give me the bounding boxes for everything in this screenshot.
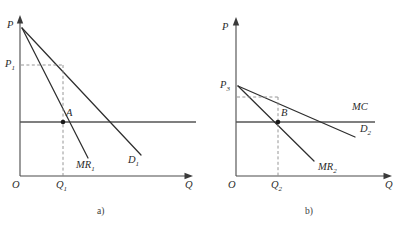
panel-b-equilibrium-point-b xyxy=(276,120,281,125)
panel-a-quantity-label-text: Q xyxy=(56,179,64,190)
economics-figure: P Q O P1 Q1 A MR1 D1 a) P Q O P3 Q2 B MR… xyxy=(0,0,412,228)
panel-b-mc-curve-label: MC xyxy=(352,102,368,113)
panel-a-equilibrium-point-a xyxy=(61,120,66,125)
panel-a-p-axis-label: P xyxy=(7,20,13,31)
panel-b-mr-curve-label: MR2 xyxy=(318,162,337,175)
panel-b-d-curve-label-text: D xyxy=(360,123,368,134)
panel-b-mr-curve-label-text: MR xyxy=(318,161,333,172)
panel-a-mr-curve-label-sub: 1 xyxy=(91,165,95,173)
panel-a-mr-curve-label-text: MR xyxy=(76,159,91,170)
panel-b-d-curve-label-sub: 2 xyxy=(368,129,372,137)
panel-b-price-label: P3 xyxy=(220,80,230,93)
panel-a-d-curve-label: D1 xyxy=(128,155,139,168)
figure-canvas xyxy=(0,0,412,228)
panel-b-point-b-label: B xyxy=(281,108,287,119)
panel-b-demand-curve-d2 xyxy=(238,86,355,137)
panel-a-price-label: P1 xyxy=(5,59,15,72)
panel-b-origin-label: O xyxy=(228,180,236,191)
panel-b-quantity-label-text: Q xyxy=(271,179,279,190)
panel-b-quantity-label: Q2 xyxy=(271,180,282,193)
panel-a-demand-curve-d1 xyxy=(22,28,141,155)
panel-a-origin-label: O xyxy=(12,180,20,191)
panel-a-marginal-revenue-curve-mr1 xyxy=(22,28,88,158)
panel-a-point-a-label: A xyxy=(66,108,72,119)
panel-b-q-axis-label: Q xyxy=(385,180,393,191)
panel-b-mr-curve-label-sub: 2 xyxy=(333,167,337,175)
panel-a-mr-curve-label: MR1 xyxy=(76,160,95,173)
panel-a-d-curve-label-text: D xyxy=(128,154,136,165)
panel-b-p-axis-label: P xyxy=(222,22,228,33)
panel-a-quantity-label-sub: 1 xyxy=(64,185,68,193)
panel-b-p-axis-arrow-icon xyxy=(233,17,239,26)
panel-b-price-label-sub: 3 xyxy=(226,85,230,93)
panel-a-caption: a) xyxy=(97,207,104,217)
panel-b-group xyxy=(233,17,392,179)
panel-a-p-axis-arrow-icon xyxy=(17,15,23,24)
panel-a-price-label-sub: 1 xyxy=(11,64,15,72)
panel-b-caption: b) xyxy=(305,207,313,217)
panel-a-d-curve-label-sub: 1 xyxy=(136,160,140,168)
panel-a-quantity-label: Q1 xyxy=(56,180,67,193)
panel-b-quantity-label-sub: 2 xyxy=(279,185,283,193)
panel-a-q-axis-label: Q xyxy=(185,180,193,191)
panel-b-d-curve-label: D2 xyxy=(360,124,371,137)
panel-a-group xyxy=(17,15,196,179)
